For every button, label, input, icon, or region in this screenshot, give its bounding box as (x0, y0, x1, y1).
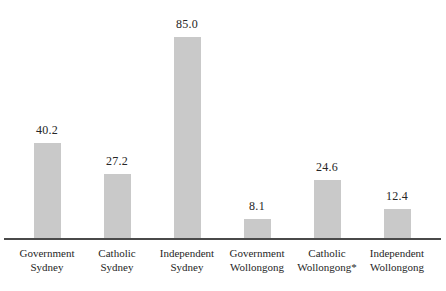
plot-area: 40.227.285.08.124.612.4 (12, 0, 432, 238)
bar-independent-wollongong (384, 209, 411, 238)
bar-catholic-wollongong (314, 180, 341, 238)
category-label-government-sydney: GovernmentSydney (12, 246, 82, 274)
bar-column-government-sydney: 40.2 (12, 0, 82, 238)
category-label-line: Government (12, 246, 82, 260)
category-label-independent-wollongong: IndependentWollongong (362, 246, 432, 274)
category-label-catholic-sydney: CatholicSydney (82, 246, 152, 274)
category-label-line: Catholic (292, 246, 362, 260)
category-label-line: Sydney (12, 260, 82, 274)
bar-column-government-wollongong: 8.1 (222, 0, 292, 238)
category-label-line: Catholic (82, 246, 152, 260)
value-label-government-wollongong: 8.1 (249, 199, 265, 214)
x-axis-labels: GovernmentSydneyCatholicSydneyIndependen… (12, 246, 432, 274)
value-label-catholic-sydney: 27.2 (106, 154, 128, 169)
bar-column-catholic-wollongong: 24.6 (292, 0, 362, 238)
bar-column-catholic-sydney: 27.2 (82, 0, 152, 238)
category-label-independent-sydney: IndependentSydney (152, 246, 222, 274)
category-label-line: Government (222, 246, 292, 260)
category-label-government-wollongong: GovernmentWollongong (222, 246, 292, 274)
bar-government-wollongong (244, 219, 271, 238)
bar-column-independent-wollongong: 12.4 (362, 0, 432, 238)
category-label-line: Wollongong (362, 260, 432, 274)
x-axis-line (4, 238, 441, 240)
value-label-independent-wollongong: 12.4 (386, 189, 408, 204)
bar-catholic-sydney (104, 174, 131, 238)
category-label-catholic-wollongong: CatholicWollongong* (292, 246, 362, 274)
category-label-line: Independent (152, 246, 222, 260)
bar-government-sydney (34, 143, 61, 238)
bar-independent-sydney (174, 37, 201, 238)
category-label-line: Wollongong* (292, 260, 362, 274)
bar-column-independent-sydney: 85.0 (152, 0, 222, 238)
value-label-government-sydney: 40.2 (36, 123, 58, 138)
category-label-line: Independent (362, 246, 432, 260)
value-label-catholic-wollongong: 24.6 (316, 160, 338, 175)
category-label-line: Sydney (152, 260, 222, 274)
category-label-line: Wollongong (222, 260, 292, 274)
category-label-line: Sydney (82, 260, 152, 274)
value-label-independent-sydney: 85.0 (176, 17, 198, 32)
bar-chart: 40.227.285.08.124.612.4 GovernmentSydney… (0, 0, 446, 291)
